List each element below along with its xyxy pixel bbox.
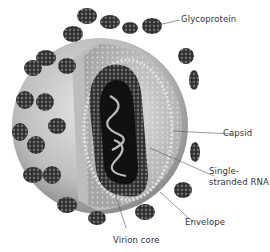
virion-illustration [0, 0, 270, 252]
virion-diagram: Glycoprotein Capsid Single- stranded RNA… [0, 0, 270, 252]
virion-core [90, 65, 148, 197]
label-rna-line2: stranded RNA [209, 177, 269, 188]
label-glycoprotein: Glycoprotein [181, 14, 236, 25]
label-capsid: Capsid [223, 128, 252, 139]
label-envelope: Envelope [185, 217, 225, 228]
label-rna-line1: Single- [209, 166, 239, 177]
label-virion-core: Virion core [113, 235, 160, 246]
